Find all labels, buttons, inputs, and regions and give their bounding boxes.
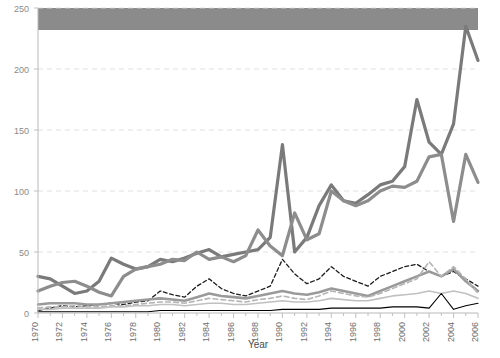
x-tick-label: 1978: [128, 322, 138, 342]
y-tick-label: 200: [14, 65, 29, 75]
y-tick-labels: 050100150200250: [14, 4, 29, 319]
legend-band: [38, 8, 478, 30]
x-tick-marks: [38, 313, 478, 318]
x-tick-label: 1976: [103, 322, 113, 342]
chart-figure: 050100150200250 197019721974197619781980…: [0, 0, 500, 358]
x-tick-label: 1994: [323, 322, 333, 342]
y-tick-label: 250: [14, 4, 29, 14]
x-tick-label: 1980: [152, 322, 162, 342]
x-tick-label: 1984: [201, 322, 211, 342]
y-tick-marks: [34, 8, 38, 313]
x-axis-title: Year: [248, 339, 269, 350]
x-tick-label: 2000: [397, 322, 407, 342]
x-tick-label: 2004: [446, 322, 456, 342]
x-tick-label: 1996: [348, 322, 358, 342]
x-tick-label: 1992: [299, 322, 309, 342]
x-tick-label: 2006: [470, 322, 480, 342]
y-tick-label: 0: [24, 309, 29, 319]
x-tick-label: 2002: [421, 322, 431, 342]
y-tick-label: 100: [14, 187, 29, 197]
x-tick-label: 1990: [274, 322, 284, 342]
x-tick-label: 1972: [54, 322, 64, 342]
x-tick-label: 1998: [372, 322, 382, 342]
plot-background: [38, 8, 478, 313]
chart-canvas: 050100150200250 197019721974197619781980…: [0, 0, 500, 358]
y-tick-label: 150: [14, 126, 29, 136]
y-tick-label: 50: [19, 248, 29, 258]
x-tick-label: 1970: [30, 322, 40, 342]
x-tick-label: 1982: [177, 322, 187, 342]
x-tick-label: 1986: [226, 322, 236, 342]
x-tick-label: 1974: [79, 322, 89, 342]
